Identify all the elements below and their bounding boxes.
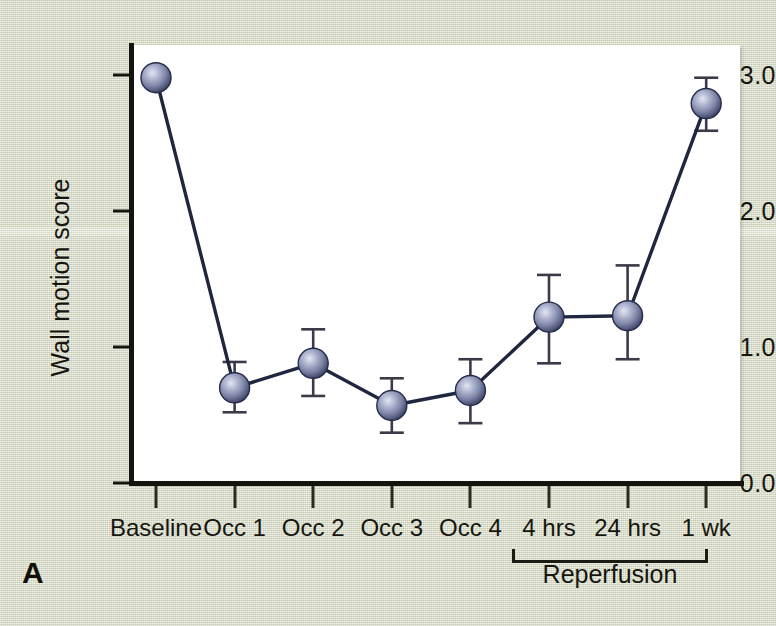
x-tick-label: 1 wk	[682, 514, 731, 542]
panel-letter: A	[22, 556, 44, 590]
x-tick-mark	[233, 486, 236, 508]
y-tick-mark	[113, 74, 129, 77]
x-tick-label: Occ 3	[360, 514, 423, 542]
y-tick-label: 0.0	[704, 469, 776, 498]
x-tick-mark	[705, 486, 708, 508]
x-tick-label: 24 hrs	[594, 514, 661, 542]
plot-area	[133, 45, 740, 483]
x-tick-label: Occ 4	[439, 514, 502, 542]
x-tick-label: Occ 2	[282, 514, 345, 542]
x-tick-label: Occ 1	[203, 514, 266, 542]
x-axis-line	[129, 481, 744, 486]
x-tick-mark	[312, 486, 315, 508]
y-tick-label: 3.0	[704, 61, 776, 90]
y-tick-mark	[113, 210, 129, 213]
x-tick-label: Baseline	[110, 514, 202, 542]
y-tick-label: 1.0	[704, 333, 776, 362]
y-axis-title: Wall motion score	[46, 143, 75, 413]
y-tick-label: 2.0	[704, 197, 776, 226]
x-tick-mark	[390, 486, 393, 508]
y-tick-mark	[113, 346, 129, 349]
y-axis-line	[129, 43, 134, 486]
x-tick-mark	[548, 486, 551, 508]
x-tick-mark	[469, 486, 472, 508]
x-tick-label: 4 hrs	[522, 514, 575, 542]
y-tick-mark	[113, 482, 129, 485]
x-tick-mark	[626, 486, 629, 508]
x-tick-mark	[155, 486, 158, 508]
figure-panel: Wall motion score 0.01.02.03.0 BaselineO…	[0, 0, 776, 626]
reperfusion-label: Reperfusion	[512, 560, 708, 589]
